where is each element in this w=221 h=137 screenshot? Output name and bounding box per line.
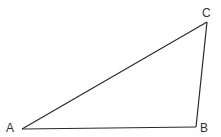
edge-b-c bbox=[196, 22, 207, 127]
edge-c-a bbox=[22, 22, 207, 129]
vertex-label-b: B bbox=[200, 121, 208, 135]
vertex-label-c: C bbox=[202, 6, 211, 20]
edge-a-b bbox=[22, 127, 196, 129]
vertex-label-a: A bbox=[6, 121, 14, 135]
triangle-diagram: A B C bbox=[0, 0, 221, 137]
